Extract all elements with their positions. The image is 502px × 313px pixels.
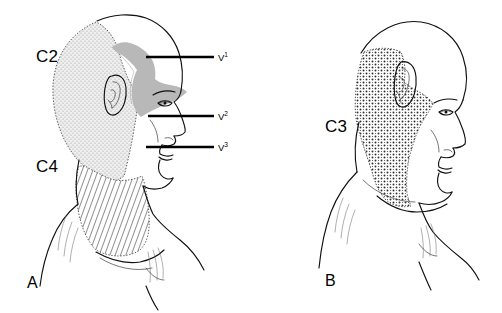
label-c2: C2 [36,47,58,66]
panel-a: C2 C4 V1 V2 V3 A [0,0,251,313]
label-c3: C3 [325,117,347,136]
panel-letter-b: B [325,272,336,289]
label-c4: C4 [36,157,58,176]
callout-v1-label: V1 [218,51,228,63]
panel-letter-a: A [27,274,38,291]
callout-v2-sup: 2 [224,110,228,117]
callout-v3-sup: 3 [224,141,228,148]
callout-v2-label: V2 [218,110,228,122]
dermatome-figure: C2 C4 V1 V2 V3 A [0,0,502,313]
callout-v1-sup: 1 [224,51,228,58]
callout-v3-label: V3 [218,141,228,153]
panel-b: C3 B [251,0,502,313]
